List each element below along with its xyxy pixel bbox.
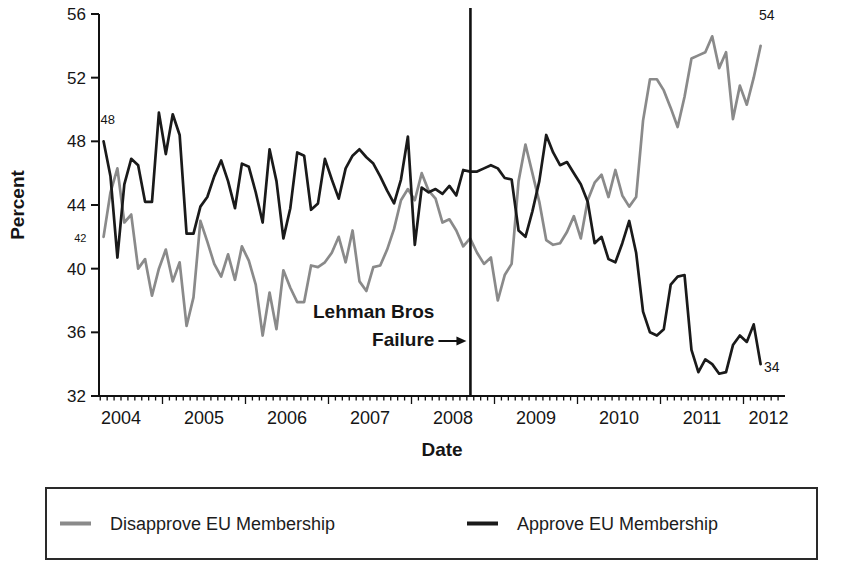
x-tick-label: 2010 [599,408,639,428]
approve-line-swatch [467,522,498,526]
annotation-line2: Failure [372,329,434,350]
data-label: 54 [759,7,775,23]
y-tick-label: 32 [67,387,86,406]
y-axis-title: Percent [7,169,28,239]
x-axis-title: Date [421,439,462,460]
chart-figure: Percent Date 323640444852562004200520062… [0,0,859,470]
y-tick-label: 40 [67,260,86,279]
x-tick-label: 2011 [683,408,722,428]
x-tick-label: 2004 [101,408,141,428]
x-tick-label: 2007 [350,408,390,428]
data-label: 42 [74,232,86,244]
y-tick-label: 36 [67,323,86,342]
y-tick-label: 52 [67,69,86,88]
data-label: 48 [100,112,114,127]
disapprove-line [104,36,761,335]
x-tick-label: 2005 [184,408,224,428]
chart-canvas: Percent Date 323640444852562004200520062… [0,0,859,470]
x-tick-label: 2012 [748,408,788,428]
legend-item-approve: Approve EU Membership [467,513,718,534]
legend-item-disapprove: Disapprove EU Membership [60,513,335,534]
legend: Disapprove EU Membership Approve EU Memb… [45,487,818,560]
legend-label-approve: Approve EU Membership [517,513,718,534]
data-label: 34 [764,359,780,375]
disapprove-line-swatch [60,522,91,526]
y-tick-label: 56 [67,5,86,24]
x-tick-label: 2006 [267,408,307,428]
y-tick-label: 48 [67,132,86,151]
y-tick-label: 44 [67,196,86,215]
x-tick-label: 2009 [516,408,556,428]
annotation-line1: Lehman Bros [313,301,434,322]
legend-label-disapprove: Disapprove EU Membership [110,513,335,534]
annotation-arrowhead [456,337,466,346]
x-tick-label: 2008 [433,408,473,428]
